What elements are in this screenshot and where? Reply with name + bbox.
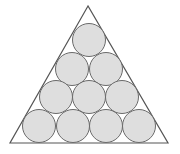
circle-row4-1 bbox=[23, 110, 56, 143]
circle-row3-3 bbox=[106, 81, 139, 114]
circle-row1-1 bbox=[73, 24, 106, 57]
circle-row4-4 bbox=[123, 110, 156, 143]
circle-row2-2 bbox=[90, 53, 123, 86]
triangle-circle-packing-diagram bbox=[0, 0, 180, 154]
circle-group bbox=[23, 24, 156, 143]
circle-row4-2 bbox=[57, 110, 90, 143]
circle-row4-3 bbox=[90, 110, 123, 143]
circle-row2-1 bbox=[56, 53, 89, 86]
circle-row3-1 bbox=[40, 81, 73, 114]
circle-row3-2 bbox=[73, 81, 106, 114]
